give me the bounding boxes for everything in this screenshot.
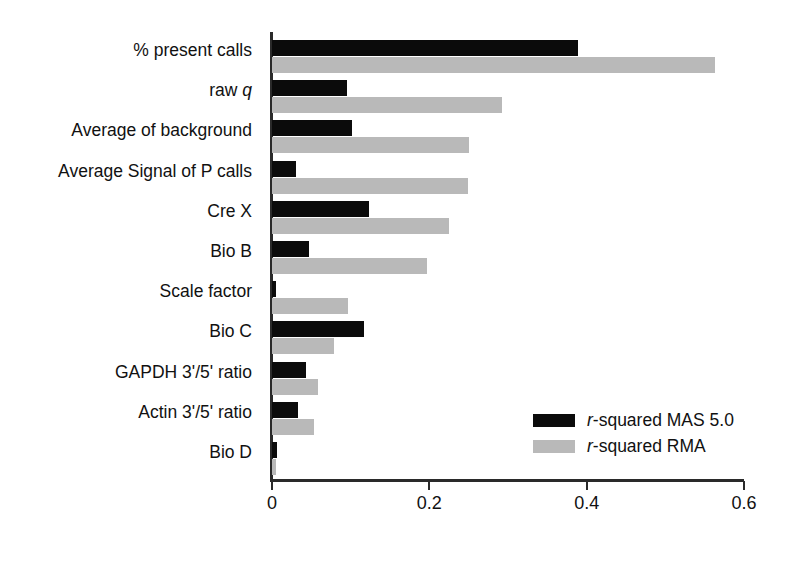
category-label: Bio C (0, 322, 252, 341)
bar-rma (272, 97, 502, 113)
bar-mas (272, 120, 352, 136)
legend-item: r-squared MAS 5.0 (533, 408, 773, 434)
x-axis-line (270, 479, 744, 482)
x-tick (743, 481, 745, 490)
x-tick-label: 0 (242, 492, 302, 514)
category-label: GAPDH 3'/5' ratio (0, 363, 252, 382)
bar-mas (272, 442, 277, 458)
category-label: Cre X (0, 202, 252, 221)
bar-rma (272, 338, 334, 354)
legend-swatch (533, 440, 575, 453)
x-tick-label: 0.2 (399, 492, 459, 514)
bar-mas (272, 40, 578, 56)
bar-rma (272, 379, 318, 395)
bar-rma (272, 258, 427, 274)
bar-mas (272, 80, 347, 96)
category-label: Bio B (0, 242, 252, 261)
x-tick-label: 0.4 (557, 492, 617, 514)
bar-rma (272, 459, 276, 475)
category-label: Bio D (0, 443, 252, 462)
bar-rma (272, 419, 314, 435)
bar-mas (272, 321, 364, 337)
bar-rma (272, 298, 348, 314)
legend-swatch (533, 414, 575, 427)
legend-label: r-squared MAS 5.0 (587, 408, 734, 433)
category-label: raw q (0, 81, 252, 100)
category-label: Average Signal of P calls (0, 162, 252, 181)
bar-rma (272, 178, 468, 194)
category-label: % present calls (0, 41, 252, 60)
x-tick-label: 0.6 (714, 492, 774, 514)
legend-label: r-squared RMA (587, 434, 706, 459)
bar-mas (272, 362, 306, 378)
category-label: Scale factor (0, 282, 252, 301)
x-tick (586, 481, 588, 490)
bar-rma (272, 218, 449, 234)
bar-mas (272, 402, 298, 418)
category-label: Actin 3'/5' ratio (0, 403, 252, 422)
x-tick (428, 481, 430, 490)
bar-rma (272, 57, 715, 73)
legend: r-squared MAS 5.0r-squared RMA (533, 408, 773, 460)
bar-mas (272, 241, 309, 257)
bar-mas (272, 281, 276, 297)
bar-chart: % present callsraw qAverage of backgroun… (0, 0, 794, 566)
category-axis-labels: % present callsraw qAverage of backgroun… (0, 32, 262, 480)
bar-rma (272, 137, 469, 153)
legend-item: r-squared RMA (533, 434, 773, 460)
bar-mas (272, 161, 296, 177)
bar-mas (272, 201, 369, 217)
category-label: Average of background (0, 121, 252, 140)
x-tick (271, 481, 273, 490)
